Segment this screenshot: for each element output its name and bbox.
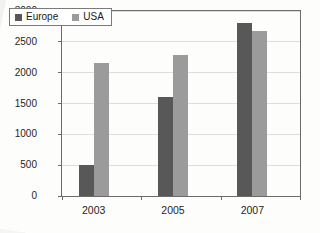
legend-label-usa: USA xyxy=(83,12,104,22)
y-axis-tick-label: 1500 xyxy=(0,99,37,109)
bar-europe-2007 xyxy=(237,23,252,196)
x-axis-tick-label: 2003 xyxy=(64,204,124,216)
bar-chart: Billion US$ 0500100015002000250030002003… xyxy=(0,0,320,233)
legend-swatch-usa-icon xyxy=(72,14,79,21)
y-axis-tick xyxy=(58,72,62,73)
plot-area: 050010001500200025003000200320052007 xyxy=(62,11,300,196)
y-axis-tick-label: 500 xyxy=(0,160,37,170)
bar-usa-2007 xyxy=(252,31,267,196)
x-axis-tick-label: 2005 xyxy=(143,204,203,216)
chart-legend: Europe USA xyxy=(9,8,112,26)
x-axis-tick-origin xyxy=(62,196,63,200)
y-axis-tick-label: 1000 xyxy=(0,129,37,139)
y-axis-tick xyxy=(58,41,62,42)
y-axis-tick-label: 0 xyxy=(0,191,37,201)
legend-label-europe: Europe xyxy=(26,12,58,22)
legend-entry-europe: Europe xyxy=(15,12,58,22)
bar-europe-2003 xyxy=(79,165,94,196)
y-axis-tick-label: 2000 xyxy=(0,68,37,78)
y-axis-tick xyxy=(58,103,62,104)
bar-europe-2005 xyxy=(158,97,173,196)
legend-swatch-europe-icon xyxy=(15,14,22,21)
y-axis-tick-label: 2500 xyxy=(0,37,37,47)
x-axis-tick xyxy=(141,196,142,200)
legend-entry-usa: USA xyxy=(72,12,104,22)
x-axis-tick-label: 2007 xyxy=(222,204,282,216)
y-axis-tick xyxy=(58,165,62,166)
y-axis-tick xyxy=(58,134,62,135)
bar-usa-2005 xyxy=(173,55,188,196)
x-axis-tick xyxy=(300,196,301,200)
plot-frame: 050010001500200025003000200320052007 xyxy=(61,10,301,197)
bar-usa-2003 xyxy=(94,63,109,196)
x-axis-tick xyxy=(221,196,222,200)
